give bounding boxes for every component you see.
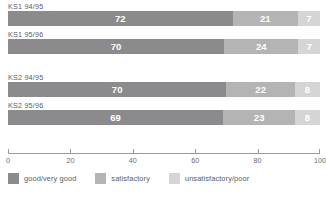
- bar-segment-value: 69: [110, 113, 121, 123]
- bar-segment-value: 22: [255, 85, 266, 95]
- x-axis-tick: [258, 149, 259, 154]
- bar-segment-value: 7: [306, 14, 311, 24]
- bar-category-label: KS1 95/96: [8, 30, 320, 39]
- bar-segment-value: 21: [260, 14, 271, 24]
- legend-swatch-icon: [169, 173, 180, 184]
- x-axis-tick: [8, 149, 9, 154]
- stacked-bar: 70247: [8, 39, 320, 54]
- bar-segment: 70: [8, 82, 226, 97]
- bar-group: KS1 94/9572217: [8, 2, 320, 26]
- bar-segment: 7: [298, 11, 320, 26]
- legend-item[interactable]: good/very good: [8, 173, 76, 184]
- stacked-bar-chart: KS1 94/9572217KS1 95/9670247KS2 94/95702…: [0, 0, 326, 197]
- legend-item[interactable]: satisfactory: [95, 173, 150, 184]
- bar-group: KS2 95/9669238: [8, 101, 320, 125]
- x-axis-tick-label: 40: [129, 156, 137, 165]
- x-axis-line: [8, 153, 320, 154]
- x-axis-tick: [133, 149, 134, 154]
- bar-segment: 70: [8, 39, 224, 54]
- x-axis-tick: [319, 149, 320, 154]
- legend-item[interactable]: unsatisfactory/poor: [169, 173, 249, 184]
- bar-segment-value: 23: [254, 113, 265, 123]
- legend-label: unsatisfactory/poor: [185, 174, 249, 183]
- bar-group: KS2 94/9570228: [8, 73, 320, 97]
- bar-segment: 23: [223, 110, 295, 125]
- x-axis-tick: [70, 149, 71, 154]
- legend-swatch-icon: [8, 173, 19, 184]
- x-axis-tick-label: 80: [254, 156, 262, 165]
- bar-category-label: KS1 94/95: [8, 2, 320, 11]
- stacked-bar: 69238: [8, 110, 320, 125]
- bar-segment: 8: [295, 82, 320, 97]
- bar-group: KS1 95/9670247: [8, 30, 320, 54]
- legend-label: good/very good: [24, 174, 76, 183]
- bar-segment-value: 8: [305, 113, 310, 123]
- x-axis-tick-label: 0: [6, 156, 10, 165]
- bar-segment: 7: [298, 39, 320, 54]
- bar-category-label: KS2 94/95: [8, 73, 320, 82]
- stacked-bar: 72217: [8, 11, 320, 26]
- bar-segment: 24: [224, 39, 298, 54]
- x-axis-tick-label: 100: [314, 156, 326, 165]
- bar-segment: 22: [226, 82, 295, 97]
- bar-segment-value: 70: [112, 85, 123, 95]
- legend-label: satisfactory: [111, 174, 150, 183]
- x-axis-tick: [195, 149, 196, 154]
- legend-swatch-icon: [95, 173, 106, 184]
- chart-legend: good/very goodsatisfactoryunsatisfactory…: [8, 171, 268, 185]
- bar-segment-value: 24: [256, 42, 267, 52]
- x-axis-tick-label: 20: [66, 156, 74, 165]
- plot-area: KS1 94/9572217KS1 95/9670247KS2 94/95702…: [8, 0, 320, 145]
- x-axis: 020406080100: [8, 149, 320, 167]
- x-axis-tick-label: 60: [191, 156, 199, 165]
- bar-segment-value: 8: [305, 85, 310, 95]
- bar-segment-value: 7: [307, 42, 312, 52]
- bar-segment: 21: [233, 11, 299, 26]
- bar-category-label: KS2 95/96: [8, 101, 320, 110]
- stacked-bar: 70228: [8, 82, 320, 97]
- bar-segment: 69: [8, 110, 223, 125]
- bar-segment: 8: [295, 110, 320, 125]
- bar-segment-value: 72: [115, 14, 126, 24]
- bar-segment-value: 70: [111, 42, 122, 52]
- bar-segment: 72: [8, 11, 233, 26]
